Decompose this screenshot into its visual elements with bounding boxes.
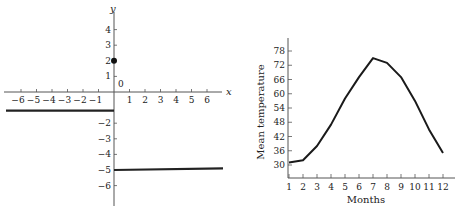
y-tick-label: 42: [274, 132, 285, 142]
x-tick-label: −3: [58, 95, 72, 105]
x-tick-label: −5: [27, 95, 41, 105]
x-tick-label: 2: [300, 182, 306, 192]
x-tick-label: 2: [142, 95, 148, 105]
y-tick-label: −4: [98, 149, 112, 159]
y-axis-title: Mean temperature: [255, 64, 266, 159]
x-tick-label: 1: [286, 182, 292, 192]
x-tick-label: 6: [356, 182, 362, 192]
y-tick-label: 48: [274, 117, 286, 127]
x-tick-label: 3: [158, 95, 164, 105]
y-tick-label: 66: [274, 75, 286, 85]
x-tick-label: 6: [204, 95, 210, 105]
y-tick-label: 72: [274, 60, 285, 70]
x-tick-label: 11: [423, 182, 434, 192]
right-segment-line: [114, 168, 223, 170]
x-tick-label: 9: [398, 182, 404, 192]
x-axis-title: Months: [347, 194, 385, 205]
x-tick-label: 5: [189, 95, 195, 105]
y-tick-label: −3: [98, 134, 112, 144]
y-tick-label: 2: [105, 56, 111, 66]
y-tick-label: 3: [105, 40, 111, 50]
x-tick-label: 12: [437, 182, 448, 192]
x-tick-label: −4: [42, 95, 56, 105]
y-tick-label: 78: [274, 46, 286, 56]
temperature-line: [289, 58, 443, 163]
x-axis-label: x: [226, 86, 232, 97]
x-tick-label: 5: [342, 182, 348, 192]
x-tick-label: −2: [73, 95, 86, 105]
y-tick-label: −6: [98, 181, 112, 191]
x-tick-label: 7: [370, 182, 376, 192]
y-tick-label: 30: [274, 160, 286, 170]
y-tick-label: 60: [274, 89, 286, 99]
x-tick-label: 4: [173, 95, 179, 105]
y-tick-label: 1: [105, 71, 111, 81]
temperature-chart: 303642485460667278123456789101112MonthsM…: [255, 38, 455, 205]
x-tick-label: 1: [127, 95, 133, 105]
y-tick-label: −5: [98, 165, 112, 175]
y-tick-label: −2: [98, 118, 111, 128]
figure: xy0−6−5−4−3−2−11234564321−2−3−4−5−6 3036…: [0, 0, 459, 218]
y-tick-label: 54: [274, 103, 286, 113]
piecewise-function-chart: xy0−6−5−4−3−2−11234564321−2−3−4−5−6: [4, 3, 232, 206]
origin-label: 0: [118, 79, 124, 89]
x-tick-label: 3: [314, 182, 320, 192]
x-tick-label: 10: [409, 182, 421, 192]
filled-point: [111, 58, 117, 64]
x-tick-label: 8: [384, 182, 390, 192]
x-tick-label: 4: [328, 182, 334, 192]
y-tick-label: 4: [105, 25, 111, 35]
x-tick-label: −6: [11, 95, 25, 105]
y-axis-label: y: [109, 3, 116, 14]
x-tick-label: −1: [89, 95, 102, 105]
y-tick-label: 36: [274, 146, 286, 156]
